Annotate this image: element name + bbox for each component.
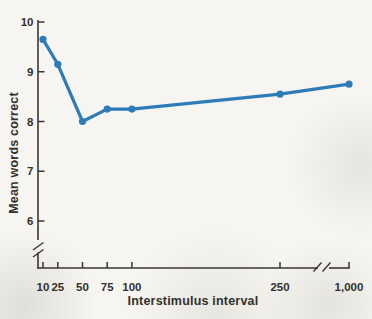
x-tick-label: 10 [37,281,50,293]
y-axis-break-slash [33,243,44,251]
x-tick-label: 100 [122,281,141,293]
x-tick-label: 25 [51,281,64,293]
data-point [39,36,46,43]
x-tick-label: 1,000 [335,281,364,293]
data-point [276,91,283,98]
y-tick-label: 9 [27,66,33,78]
data-point [79,118,86,125]
y-tick-label: 6 [27,215,33,227]
y-axis-label: Mean words correct [7,92,21,214]
x-tick-label: 75 [101,281,114,293]
data-line [43,39,349,121]
scanned-figure: 678910102550751002501,000 Mean words cor… [0,0,372,319]
data-point [345,81,352,88]
x-tick-label: 50 [76,281,89,293]
x-axis-break-slash [314,263,322,272]
x-tick-label: 250 [270,281,289,293]
data-point [54,61,61,68]
x-axis-label: Interstimulus interval [128,294,259,308]
x-axis-break-slash [323,263,331,272]
y-tick-label: 7 [27,165,33,177]
line-chart-plot: 678910102550751002501,000 [0,0,372,319]
y-tick-label: 10 [21,16,34,28]
data-point [104,105,111,112]
y-tick-label: 8 [27,116,34,128]
data-point [128,105,135,112]
